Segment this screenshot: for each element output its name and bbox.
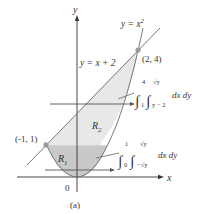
svg-text:dx dy: dx dy	[158, 150, 177, 160]
line-label: y = x + 2	[79, 58, 116, 68]
point-2-4	[135, 47, 140, 52]
figure-caption: (a)	[70, 200, 80, 210]
x-axis-arrow-icon	[158, 175, 164, 179]
svg-text:y − 2: y − 2	[152, 101, 165, 108]
double-integral-region-diagram: y x 0 y = x2 y = x + 2 (2, 4) (-1, 1) R2…	[0, 0, 209, 214]
svg-text:1: 1	[141, 101, 144, 108]
y-axis-arrow-icon	[75, 15, 79, 21]
svg-text:∫: ∫	[129, 153, 136, 170]
svg-text:dx dy: dx dy	[172, 90, 191, 100]
origin-label: 0	[65, 183, 70, 193]
lower-arrow-head-icon	[110, 168, 115, 172]
point-2-4-label: (2, 4)	[142, 54, 162, 64]
svg-text:√y: √y	[153, 78, 161, 85]
svg-text:1: 1	[125, 140, 128, 147]
point-neg1-1	[43, 142, 48, 147]
parabola-label: y = x2	[120, 17, 145, 29]
y-axis-label: y	[72, 4, 78, 15]
svg-text:4: 4	[142, 78, 146, 85]
svg-text:∫: ∫	[145, 93, 152, 110]
lower-integral: ∫ 1 0 ∫ √y −√y dx dy	[117, 140, 177, 170]
svg-text:∫: ∫	[134, 93, 141, 110]
upper-integral: ∫ 4 1 ∫ √y y − 2 dx dy	[134, 78, 191, 110]
svg-text:0: 0	[124, 161, 127, 168]
x-axis-label: x	[166, 172, 172, 183]
svg-text:∫: ∫	[117, 153, 124, 170]
svg-text:−√y: −√y	[137, 161, 148, 168]
svg-text:√y: √y	[140, 140, 148, 147]
point-neg1-1-label: (-1, 1)	[15, 134, 38, 144]
